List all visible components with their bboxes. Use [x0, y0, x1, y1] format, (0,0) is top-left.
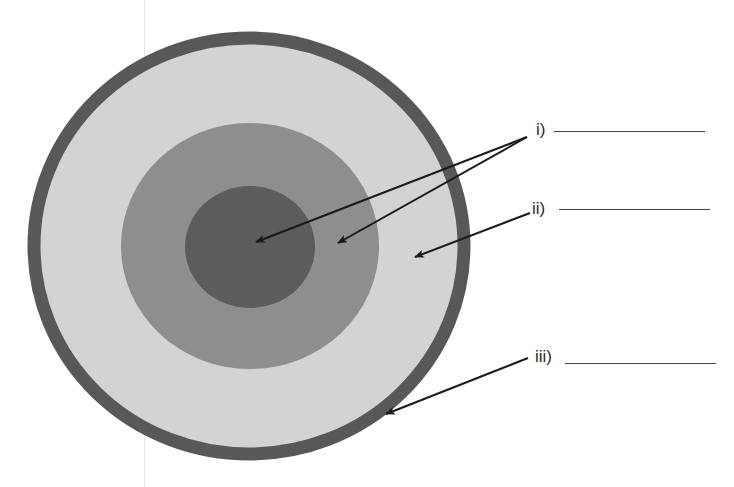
answer-blank-ii[interactable] [559, 209, 710, 210]
label-ii: ii) [532, 200, 545, 217]
label-i: i) [536, 121, 545, 138]
core [185, 186, 315, 308]
label-iii: iii) [535, 348, 552, 365]
answer-blank-iii[interactable] [565, 363, 716, 364]
answer-blank-i[interactable] [554, 131, 705, 132]
concentric-circle-diagram [0, 0, 734, 487]
